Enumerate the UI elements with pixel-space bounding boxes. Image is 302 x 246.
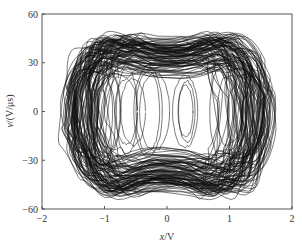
- y-tick-label: −30: [22, 155, 38, 166]
- x-tick-label: 0: [165, 213, 170, 224]
- inner-loop: [134, 66, 163, 157]
- y-tick-label: −60: [22, 204, 38, 215]
- phase-portrait-chart: −2−1012 −60−3003060 x/V v/(V/μs): [0, 0, 302, 246]
- inner-loop: [140, 73, 170, 152]
- y-tick-label: 0: [33, 106, 38, 117]
- x-axis-label: x/V: [159, 231, 175, 242]
- attractor-trajectory: [58, 31, 276, 199]
- x-tick-label: 2: [290, 213, 295, 224]
- x-tick-label: −1: [99, 213, 110, 224]
- inner-loop: [179, 80, 195, 142]
- inner-loop: [173, 75, 198, 148]
- y-tick-label: 60: [28, 9, 38, 20]
- y-axis-label: v/(V/μs): [4, 94, 16, 127]
- inner-loop: [218, 77, 235, 145]
- y-tick-label: 30: [28, 57, 38, 68]
- inner-loop: [116, 67, 137, 154]
- x-tick-label: −2: [37, 213, 48, 224]
- x-tick-label: 1: [227, 213, 232, 224]
